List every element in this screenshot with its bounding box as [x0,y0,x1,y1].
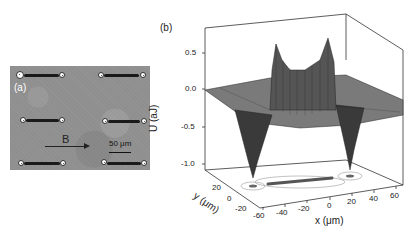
arrow-head-icon [84,143,90,149]
rod [26,119,59,122]
bead [60,160,66,166]
panel-a-label: (a) [14,82,26,93]
scale-bar [109,152,131,153]
z-tick: 0.0 [185,84,196,93]
bead [59,72,65,78]
x-tick: -20 [298,204,310,213]
y-tick: -20 [235,204,247,213]
x-tick: 0 [327,201,331,210]
panel-b-label: (b) [160,22,172,33]
x-tick: 20 [347,197,356,206]
z-tick: 0.5 [185,48,196,57]
microscopy-image-panel-a: (a) B 50 μm [10,66,150,170]
rod [107,162,141,165]
scale-bar-label: 50 μm [109,139,131,148]
image-texture [10,66,150,170]
bead-large [16,71,24,79]
x-tick: -60 [253,211,265,220]
y-tick: 0 [227,194,231,203]
x-tick: 40 [369,194,378,203]
z-tick: -0.5 [181,122,195,131]
bead [141,160,147,166]
surface-plot-panel-b: (b) 0.5 0.0 -0.5 -1.0 U (aJ) -60 -40 -20… [150,0,412,235]
bead [140,72,146,78]
x-tick: 60 [390,191,399,200]
bead [59,117,65,123]
field-label-b: B [62,133,69,145]
rod [24,74,59,77]
rod [24,162,60,165]
rod [108,120,140,123]
z-tick: -1.0 [181,159,195,168]
rod [104,74,139,77]
x-axis-title: x (μm) [315,215,344,226]
x-tick: -40 [276,208,288,217]
y-tick: 20 [212,183,221,192]
bead [141,118,147,124]
z-axis-title: U (aJ) [148,105,159,132]
field-arrow [45,146,85,147]
